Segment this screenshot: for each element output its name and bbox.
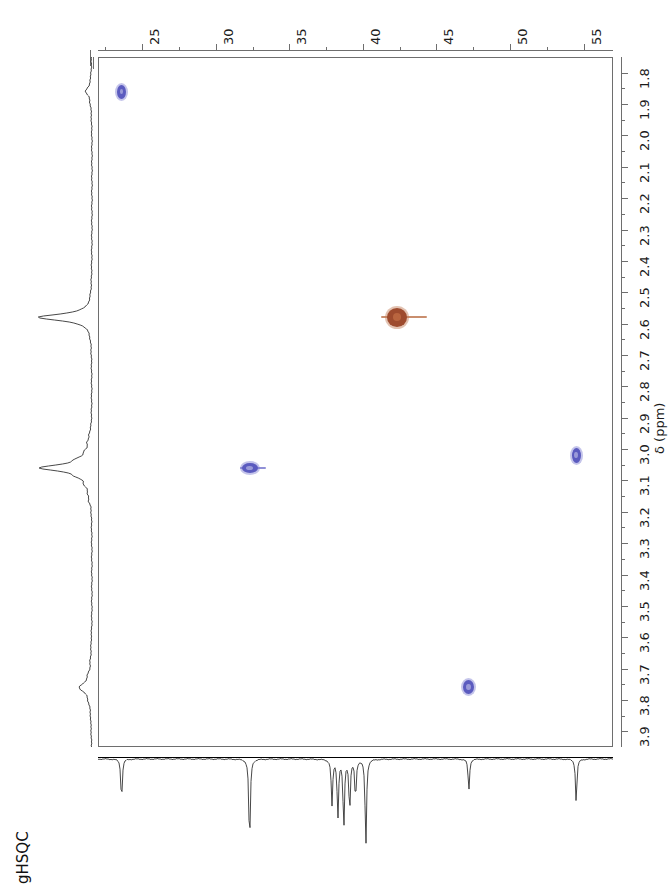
proton-axis-minor-tick — [621, 120, 625, 121]
proton-axis-major-tick — [621, 606, 628, 607]
carbon-axis-tick-label: 55 — [589, 28, 604, 45]
carbon-axis-minor-tick — [326, 47, 327, 51]
proton-axis-line — [621, 57, 622, 747]
proton-axis-major-tick — [621, 637, 628, 638]
proton-axis-major-tick — [621, 669, 628, 670]
proton-axis-major-tick — [621, 355, 628, 356]
carbon-axis-line — [98, 50, 613, 51]
carbon-1d-projection — [98, 756, 613, 848]
proton-axis-major-tick — [621, 480, 628, 481]
carbon-projection-trace — [98, 758, 613, 843]
proton-axis-major-tick — [621, 135, 628, 136]
proton-axis-minor-tick — [621, 622, 625, 623]
proton-axis-major-tick — [621, 292, 628, 293]
proton-axis-minor-tick — [621, 245, 625, 246]
proton-axis-minor-tick — [621, 339, 625, 340]
proton-axis-minor-tick — [621, 433, 625, 434]
carbon-axis-major-tick — [216, 44, 217, 51]
carbon-axis-tick-label: 50 — [515, 28, 530, 45]
carbon-axis-tick-label: 25 — [147, 28, 162, 45]
carbon-axis-tick-label: 30 — [221, 28, 236, 45]
ppm-axis-label: δ (ppm) — [652, 403, 667, 454]
carbon-axis-tick-label: 35 — [294, 28, 309, 45]
proton-axis-major-tick — [621, 449, 628, 450]
cross-peak-inner-contour — [246, 466, 253, 470]
proton-axis-tick-label: 2.3 — [637, 225, 652, 246]
proton-axis-major-tick — [621, 386, 628, 387]
proton-axis-tick-label: 2.9 — [637, 413, 652, 434]
carbon-axis-minor-tick — [179, 47, 180, 51]
carbon-axis-minor-tick — [105, 47, 106, 51]
carbon-axis-major-tick — [363, 44, 364, 51]
proton-axis-tick-label: 1.8 — [637, 68, 652, 89]
experiment-title: gHSQC — [14, 831, 32, 884]
proton-axis-minor-tick — [621, 308, 625, 309]
proton-axis-tick-label: 3.6 — [637, 633, 652, 654]
proton-axis-major-tick — [621, 324, 628, 325]
carbon-axis-minor-tick — [253, 47, 254, 51]
proton-axis-tick-label: 2.6 — [637, 319, 652, 340]
proton-axis-major-tick — [621, 543, 628, 544]
proton-axis-tick-label: 2.4 — [637, 256, 652, 277]
proton-axis-tick-label: 3.8 — [637, 695, 652, 716]
proton-1d-projection — [36, 57, 98, 747]
proton-axis-tick-label: 3.2 — [637, 507, 652, 528]
proton-axis-minor-tick — [621, 182, 625, 183]
proton-axis-major-tick — [621, 575, 628, 576]
proton-axis-tick-label: 3.3 — [637, 538, 652, 559]
proton-axis-tick-label: 2.0 — [637, 131, 652, 152]
carbon-axis-minor-tick — [473, 47, 474, 51]
proton-axis-tick-label: 2.1 — [637, 162, 652, 183]
proton-axis-major-tick — [621, 230, 628, 231]
carbon-axis-tick-label: 45 — [441, 28, 456, 45]
proton-axis-minor-tick — [621, 559, 625, 560]
proton-axis-minor-tick — [621, 653, 625, 654]
spectrum-plot-area[interactable] — [98, 57, 613, 747]
carbon-axis-tick-label: 40 — [368, 28, 383, 45]
carbon-axis-major-tick — [584, 44, 585, 51]
proton-axis-minor-tick — [621, 496, 625, 497]
proton-axis-tick-label: 3.1 — [637, 476, 652, 497]
proton-axis-minor-tick — [621, 277, 625, 278]
proton-axis-tick-label: 3.0 — [637, 444, 652, 465]
proton-axis-major-tick — [621, 167, 628, 168]
carbon-axis-major-tick — [142, 44, 143, 51]
carbon-axis-minor-tick — [547, 47, 548, 51]
proton-projection-trace — [38, 57, 92, 747]
proton-axis-minor-tick — [621, 590, 625, 591]
proton-axis-major-tick — [621, 261, 628, 262]
proton-axis-minor-tick — [621, 716, 625, 717]
proton-axis-major-tick — [621, 104, 628, 105]
carbon-axis-minor-tick — [400, 47, 401, 51]
proton-axis-tick-label: 2.8 — [637, 382, 652, 403]
proton-axis-minor-tick — [621, 402, 625, 403]
proton-axis-tick-label: 3.5 — [637, 601, 652, 622]
proton-axis-minor-tick — [621, 527, 625, 528]
proton-axis-major-tick — [621, 512, 628, 513]
proton-axis-major-tick — [621, 198, 628, 199]
proton-axis-major-tick — [621, 700, 628, 701]
proton-axis-major-tick — [621, 731, 628, 732]
proton-axis-major-tick — [621, 418, 628, 419]
proton-axis-major-tick — [621, 73, 628, 74]
proton-axis-minor-tick — [621, 465, 625, 466]
proton-axis-tick-label: 1.9 — [637, 99, 652, 120]
spectrum-canvas: δ (ppm) gHSQC 253035404550551.81.92.02.1… — [0, 0, 671, 892]
proton-axis-tick-label: 3.4 — [637, 570, 652, 591]
carbon-axis-major-tick — [510, 44, 511, 51]
proton-axis-tick-label: 2.2 — [637, 193, 652, 214]
proton-axis-tick-label: 3.9 — [637, 727, 652, 748]
proton-axis-tick-label: 2.7 — [637, 350, 652, 371]
proton-axis-tick-label: 2.5 — [637, 288, 652, 309]
proton-axis-minor-tick — [621, 88, 625, 89]
proton-axis-minor-tick — [621, 684, 625, 685]
carbon-axis-major-tick — [289, 44, 290, 51]
proton-axis-tick-label: 3.7 — [637, 664, 652, 685]
carbon-axis-major-tick — [436, 44, 437, 51]
proton-axis-minor-tick — [621, 151, 625, 152]
proton-axis-minor-tick — [621, 371, 625, 372]
proton-axis-minor-tick — [621, 214, 625, 215]
